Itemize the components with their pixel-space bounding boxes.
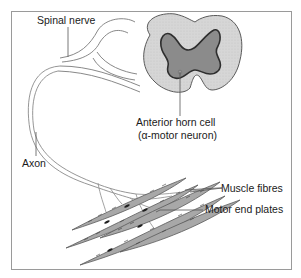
label-muscle-fibres: Muscle fibres [221, 182, 283, 194]
label-spinal-nerve: Spinal nerve [37, 14, 96, 26]
label-alpha-motor-neuron: (α-motor neuron) [138, 129, 217, 141]
label-axon: Axon [22, 157, 46, 169]
label-motor-end-plates: Motor end plates [205, 203, 283, 215]
spinal-cord-cross-section [144, 14, 242, 93]
motor-unit-diagram: Spinal nerve Anterior horn cell (α-motor… [0, 0, 301, 278]
label-anterior-horn-cell: Anterior horn cell [136, 116, 215, 128]
